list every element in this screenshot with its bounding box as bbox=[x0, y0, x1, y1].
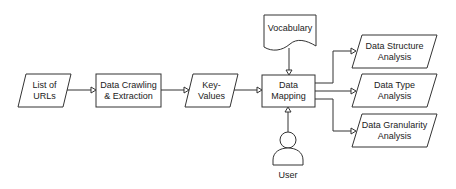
edge-mapping-to-type bbox=[315, 88, 356, 94]
edge-urls-to-crawling bbox=[67, 87, 96, 93]
edge-mapping-to-granularity bbox=[315, 99, 356, 134]
user-icon bbox=[273, 132, 303, 165]
node-vocabulary-label: Vocabulary bbox=[264, 18, 316, 38]
node-data-crawling-label: Data Crawling & Extraction bbox=[96, 74, 161, 107]
node-data-structure-label: Data Structure Analysis bbox=[352, 35, 437, 68]
node-key-values-label: Key- Values bbox=[185, 74, 238, 107]
edge-mapping-to-structure bbox=[315, 48, 356, 83]
edge-keyvalues-to-mapping bbox=[234, 87, 262, 93]
node-user-label: User bbox=[268, 169, 308, 181]
node-data-type-label: Data Type Analysis bbox=[352, 74, 437, 107]
node-list-of-urls-label: List of URLs bbox=[18, 74, 71, 107]
node-data-granularity-label: Data Granularity Analysis bbox=[352, 114, 437, 147]
node-data-mapping-label: Data Mapping bbox=[262, 75, 315, 107]
edge-vocabulary-to-mapping bbox=[286, 48, 292, 75]
edge-user-to-mapping bbox=[285, 107, 291, 132]
